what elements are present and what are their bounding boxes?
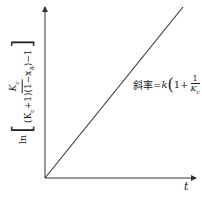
y-fraction: Kc (Kc+1)(1−xA)−1: [8, 48, 37, 123]
y-denominator: (Kc+1)(1−xA)−1: [23, 48, 37, 123]
x-axis-label: t: [184, 180, 188, 193]
slope-prefix: 斜率=: [133, 77, 161, 92]
left-bracket: [: [9, 125, 35, 133]
ln-text: ln: [17, 135, 28, 145]
slope-one-plus: 1+: [174, 79, 189, 90]
y-axis-label: ln [ Kc (Kc+1)(1−xA)−1 ]: [2, 0, 42, 198]
slope-annotation: 斜率= k ( 1+ 1 Kc ): [133, 74, 202, 96]
y-numerator: Kc: [8, 79, 23, 93]
slope-fraction: 1 Kc: [189, 74, 200, 96]
right-bracket: ]: [9, 40, 35, 48]
